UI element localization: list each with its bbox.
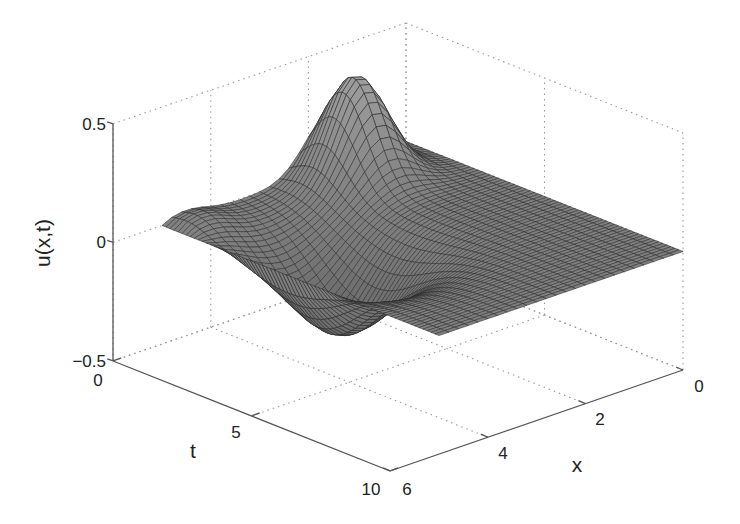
x-tick-0: 0	[694, 377, 703, 396]
t-axis-line	[113, 361, 390, 471]
x-tick-6: 6	[402, 480, 411, 499]
z-tick-0.5: 0.5	[82, 115, 106, 134]
x-axis-label: x	[572, 453, 583, 476]
t-axis-label: t	[190, 439, 196, 462]
z-tick-0: 0	[97, 233, 106, 252]
t-tick-0: 0	[93, 371, 102, 390]
x-tick-4: 4	[498, 444, 507, 463]
z-tick-neg0.5: −0.5	[72, 352, 106, 371]
z-axis-label: u(x,t)	[31, 219, 54, 267]
t-tick-5: 5	[231, 423, 240, 442]
t-tick-10: 10	[362, 480, 381, 499]
x-axis-line	[390, 370, 683, 471]
surface-mesh	[162, 77, 683, 336]
x-tick-2: 2	[595, 410, 604, 429]
surface-plot: 0.5 0 −0.5 0 5 10 0 2 4 6 u(x,t) t x	[0, 0, 740, 524]
